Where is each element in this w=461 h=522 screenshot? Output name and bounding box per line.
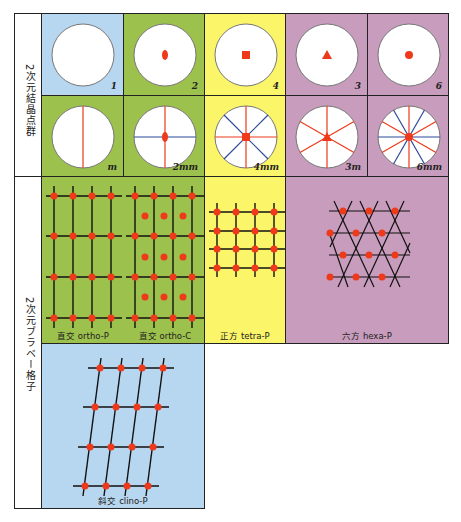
- pg-3: 3: [285, 13, 368, 96]
- pg-3m: 3m: [285, 95, 368, 177]
- side-label-lattices: 2次元ブラベー格子: [14, 176, 42, 509]
- point-groups-label: 2次元結晶点群: [22, 64, 37, 137]
- ortho-p-caption: 直交 ortho-P: [42, 329, 124, 341]
- lattice-hexa: 六方 hexa-P: [285, 176, 449, 344]
- pg-2: 2: [123, 13, 205, 96]
- clino-p-caption: 斜交 clino-P: [42, 494, 204, 506]
- pg-4mm: 4mm: [204, 95, 286, 177]
- lattices-label: 2次元ブラベー格子: [22, 297, 37, 392]
- pg-6mm: 6mm: [367, 95, 449, 177]
- pg-m: m: [41, 95, 124, 177]
- ortho-c-caption: 直交 ortho-C: [124, 329, 206, 341]
- pg-6: 6: [367, 13, 449, 96]
- lattice-clino: 斜交 clino-P: [41, 343, 205, 509]
- lattice-ortho: 直交 ortho-P 直交 ortho-C: [41, 176, 205, 344]
- pg-2mm: 2mm: [123, 95, 205, 177]
- hexa-p-caption: 六方 hexa-P: [286, 329, 448, 341]
- pg-4: 4: [204, 13, 286, 96]
- side-label-point-groups: 2次元結晶点群: [14, 13, 42, 177]
- lattice-tetra: 正方 tetra-P: [204, 176, 286, 344]
- tetra-p-caption: 正方 tetra-P: [205, 329, 285, 341]
- pg-1: 1: [41, 13, 124, 96]
